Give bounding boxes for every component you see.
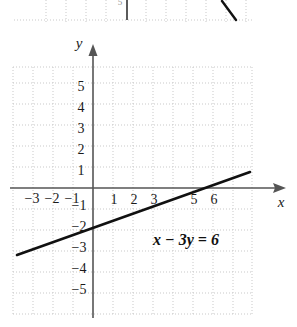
y-axis-arrowhead-icon bbox=[89, 44, 98, 56]
equation-annotation: x − 3y = 6 bbox=[152, 231, 219, 249]
x-tick-label: 2 bbox=[131, 192, 138, 207]
y-tick-label: 1 bbox=[78, 163, 85, 178]
x-tick-label: 5 bbox=[191, 192, 198, 207]
partial-figure-above: 5 bbox=[14, 0, 252, 22]
y-axis-label: y bbox=[74, 35, 83, 51]
x-tick-label: −2 bbox=[45, 191, 60, 206]
x-axis-label: x bbox=[277, 194, 285, 210]
y-tick-label: −4 bbox=[72, 261, 87, 276]
partial-tick-label: 5 bbox=[118, 0, 123, 7]
x-tick-label: 6 bbox=[211, 192, 218, 207]
y-tick-label: −5 bbox=[72, 282, 87, 297]
y-tick-label: 2 bbox=[78, 142, 85, 157]
x-tick-label: −3 bbox=[25, 191, 40, 206]
x-tick-label: −1 bbox=[65, 191, 80, 206]
partial-line-segment bbox=[222, 1, 236, 20]
x-tick-label: 1 bbox=[111, 192, 118, 207]
y-tick-label: 5 bbox=[78, 79, 85, 94]
y-tick-label: 3 bbox=[78, 121, 85, 136]
graph-figure: 5 bbox=[0, 0, 297, 327]
axes bbox=[10, 44, 286, 318]
partial-grid bbox=[14, 0, 252, 22]
y-tick-label: −3 bbox=[72, 240, 87, 255]
y-tick-label: 4 bbox=[78, 100, 85, 115]
figure-container: 5 bbox=[0, 0, 297, 327]
